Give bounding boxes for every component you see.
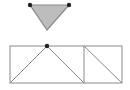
diagonal-left-falling xyxy=(47,46,84,83)
diagram-canvas xyxy=(0,0,130,90)
diagonal-right-square xyxy=(84,46,122,83)
diagonal-left-rising xyxy=(10,46,47,83)
inverted-triangle xyxy=(30,5,69,30)
triangle-vertex-dot-left xyxy=(28,3,32,7)
apex-dot xyxy=(45,44,49,48)
triangle-vertex-dot-right xyxy=(67,3,71,7)
